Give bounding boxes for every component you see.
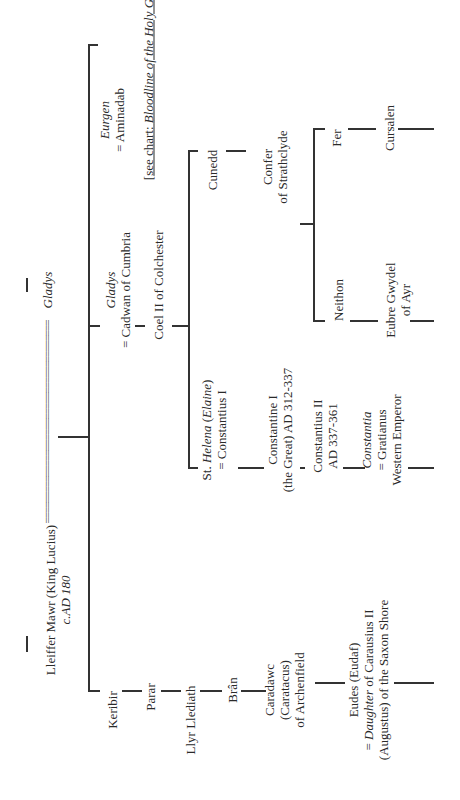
gladys-block: Gladys = Cadwan of Cumbria <box>103 232 133 348</box>
constantine-block: Constantine I (the Great) AD 312-337 <box>265 368 295 493</box>
gladys-name: Gladys <box>103 232 118 348</box>
helena-paren-open: ( <box>199 418 214 426</box>
spouse-gladys: Gladys <box>40 272 55 309</box>
eudes-block: Eudes (Eudaf) = Daughter of Carausius II… <box>346 600 391 760</box>
eubre-place: of Ayr <box>398 262 413 337</box>
confer-title: of Strathclyde <box>275 130 290 203</box>
root-name: Lleiffer Mawr (King Lucius) <box>43 525 58 675</box>
coel-children-line <box>188 150 190 468</box>
eudes-name: Eudes (Eudaf) <box>346 600 361 760</box>
confer-children-line <box>313 128 315 321</box>
cunedd-to-confer <box>226 150 246 152</box>
coel-to-children <box>172 325 188 327</box>
note-bracket-open: [ <box>141 176 156 180</box>
helena-given-name: Helena <box>199 425 214 463</box>
gladys-connector <box>88 325 100 327</box>
caradawc-to-eudes <box>315 682 345 684</box>
eurgen-block: Eurgen = Aminadab <box>97 88 127 152</box>
constantia-block: Constantia = Gratianus Western Emperor <box>359 395 404 486</box>
caradawc-block: Caradawc (Caratacus) of Archenfield <box>262 652 307 727</box>
confer-name: Confer <box>260 130 275 203</box>
fer-to-cursalen <box>348 128 376 130</box>
eurgen-spouse: = Aminadab <box>112 88 127 152</box>
marriage-line: ======================================= <box>41 321 53 524</box>
caradawc-alias: (Caratacus) <box>277 652 292 727</box>
eurgen-name: Eurgen <box>97 88 112 152</box>
fer: Fer <box>329 129 344 146</box>
constantia-spouse: = Gratianus <box>374 395 389 486</box>
cursalen-continuation <box>398 128 434 130</box>
eudes-eq: = <box>361 740 376 751</box>
keribir-to-parar <box>122 690 142 692</box>
constantine-to-constantius <box>300 467 305 469</box>
holy-grail-chart-reference[interactable]: [see chart: Bloodline of the Holy Grail] <box>141 0 156 180</box>
caradawc-name: Caradawc <box>262 652 277 727</box>
eudes-of: of Carausius II <box>361 610 376 691</box>
root-stem <box>58 436 89 438</box>
helena-to-constantine <box>238 467 264 469</box>
bran: Brân <box>225 677 240 702</box>
neithon: Neithon <box>331 279 346 321</box>
eudes-daughter: Daughter <box>361 690 376 740</box>
confer-block: Confer of Strathclyde <box>260 130 290 203</box>
eubre-name: Eubre Gwydel <box>383 262 398 337</box>
eubre-continuation <box>410 320 434 322</box>
spouse-tick <box>26 278 28 292</box>
constantine-name: Constantine I <box>265 368 280 493</box>
neithon-connector <box>313 320 325 322</box>
cursalen: Cursalen <box>382 105 397 151</box>
note-title: Bloodline of the Holy Grail <box>141 0 156 123</box>
cunedd-connector <box>188 150 198 152</box>
helena-name: St. Helena (Elaine) <box>199 380 214 481</box>
parar: Parar <box>143 683 158 710</box>
helena-block: St. Helena (Elaine) = Constantius I <box>199 380 229 481</box>
root-top-tick <box>26 636 28 652</box>
helena-st: St. <box>199 463 214 480</box>
keribir-connector <box>88 690 100 692</box>
root-lleiffer-mawr: Lleiffer Mawr (King Lucius) c.AD 180 <box>43 525 73 675</box>
fer-connector <box>313 128 325 130</box>
constantia-title: Western Emperor <box>389 395 404 486</box>
confer-to-children <box>300 223 314 225</box>
cunedd: Cunedd <box>205 150 220 190</box>
constantius-ii-name: Constantius II <box>310 399 325 472</box>
constantine-reign: (the Great) AD 312-337 <box>280 368 295 493</box>
constantia-continuation <box>408 467 434 469</box>
eudes-spouse: = Daughter of Carausius II <box>361 600 376 760</box>
coel-ii: Coel II of Colchester <box>151 230 166 339</box>
main-children-line <box>88 44 90 692</box>
constantia-name: Constantia <box>359 395 374 486</box>
caradawc-place: of Archenfield <box>292 652 307 727</box>
eubre-block: Eubre Gwydel of Ayr <box>383 262 413 337</box>
note-see: see chart: <box>141 123 156 176</box>
keribir: Keribir <box>105 691 120 729</box>
neithon-to-eubre <box>350 320 378 322</box>
eudes-title: (Augustus) of the Saxon Shore <box>376 600 391 760</box>
gladys-spouse: = Cadwan of Cumbria <box>118 232 133 348</box>
helena-spouse: = Constantius I <box>214 380 229 481</box>
llyr-llediath: Llyr Llediath <box>183 686 198 755</box>
helena-alt-name: Elaine <box>199 384 214 418</box>
constantius-ii-block: Constantius II AD 337-361 <box>310 399 340 472</box>
helena-paren-close: ) <box>199 380 214 384</box>
gladys-to-coel <box>135 325 145 327</box>
eurgen-connector <box>88 44 98 46</box>
llyr-to-bran <box>200 690 222 692</box>
helena-connector <box>188 467 198 469</box>
parar-to-llyr <box>161 690 181 692</box>
root-date: c.AD 180 <box>58 525 73 675</box>
eudes-continuation <box>394 682 434 684</box>
constantius-ii-reign: AD 337-361 <box>325 399 340 472</box>
